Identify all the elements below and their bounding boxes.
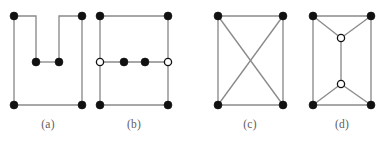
graph-node-filled [96,101,104,109]
graph-node-filled [309,12,317,20]
graph-node-open [337,80,344,87]
graph-node-filled [32,58,40,66]
caption-graph-c: (c) [210,118,290,130]
graph-node-open [337,34,344,41]
graph-a [10,12,86,109]
graph-edge [313,84,341,105]
graph-node-filled [78,12,86,20]
graph-node-filled [96,12,104,20]
graph-edge [14,16,36,62]
graph-node-filled [78,101,86,109]
graph-b-nodes [96,12,172,109]
graph-a-edges [14,16,82,105]
graph-c [214,12,287,109]
graph-c-edges [218,16,283,105]
graph-node-filled [367,101,375,109]
graph-node-filled [279,12,287,20]
graph-d [309,12,375,109]
graph-node-open [164,58,171,65]
figure-container: (a) (b) (c) (d) [0,0,387,141]
graph-node-filled [214,101,222,109]
graph-b [96,12,172,109]
graph-node-filled [309,101,317,109]
graph-node-filled [120,58,128,66]
graph-b-edges [100,16,168,105]
graph-node-filled [367,12,375,20]
graph-node-filled [214,12,222,20]
caption-graph-a: (a) [8,118,88,130]
caption-graph-b: (b) [94,118,174,130]
graph-node-filled [164,101,172,109]
graph-d-edges [313,16,371,105]
graph-node-filled [10,12,18,20]
caption-graph-d: (d) [302,118,382,130]
graph-a-nodes [10,12,86,109]
graph-node-filled [279,101,287,109]
graph-node-filled [141,58,149,66]
graph-edge [59,16,82,62]
graph-edge [341,84,371,105]
graph-node-filled [55,58,63,66]
graph-d-nodes [309,12,375,109]
graph-node-filled [10,101,18,109]
graph-edge [313,16,341,38]
graph-node-filled [164,12,172,20]
graph-edge [341,16,371,38]
graph-node-open [96,58,103,65]
